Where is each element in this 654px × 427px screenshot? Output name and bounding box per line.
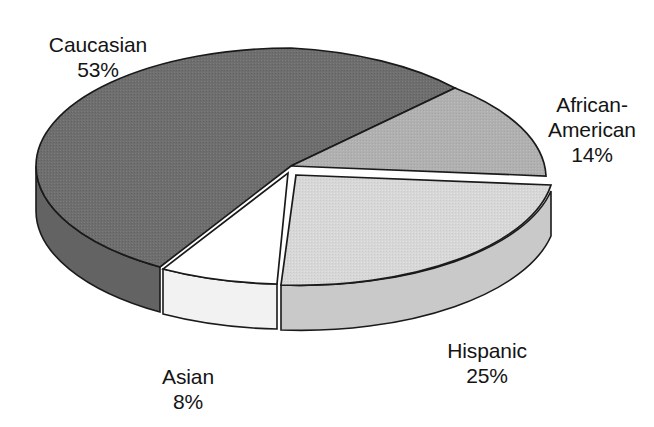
pie-label-caucasian-value: 53% (28, 57, 168, 82)
pie-chart-figure: Caucasian 53% African- American 14% Hisp… (0, 0, 654, 427)
pie-top-faces (36, 48, 551, 285)
pie-label-caucasian: Caucasian 53% (28, 32, 168, 82)
pie-label-african-american-name-line2: American (536, 117, 648, 142)
pie-label-caucasian-name: Caucasian (28, 32, 168, 57)
pie-label-hispanic: Hispanic 25% (432, 338, 542, 388)
pie-label-asian: Asian 8% (140, 364, 236, 414)
pie-label-asian-value: 8% (140, 389, 236, 414)
pie-label-african-american-value: 14% (536, 142, 648, 167)
pie-label-hispanic-name: Hispanic (432, 338, 542, 363)
pie-label-hispanic-value: 25% (432, 363, 542, 388)
pie-label-african-american-name-line1: African- (536, 92, 648, 117)
pie-label-african-american: African- American 14% (536, 92, 648, 167)
pie-label-asian-name: Asian (140, 364, 236, 389)
